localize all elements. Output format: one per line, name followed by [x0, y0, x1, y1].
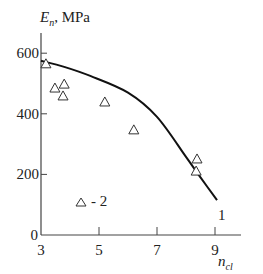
- series-2-point: [59, 79, 69, 88]
- y-tick-label: 400: [17, 106, 40, 122]
- series-line: [41, 61, 217, 200]
- x-axis-title: ncl: [218, 253, 233, 272]
- y-tick-label: 600: [17, 45, 40, 61]
- series-points: [41, 59, 202, 175]
- series-1-curve: [41, 61, 217, 200]
- ticks: 35790200400600: [17, 45, 219, 258]
- series-2-point: [192, 154, 202, 163]
- y-tick-label: 200: [17, 166, 40, 182]
- x-tick-label: 5: [95, 242, 103, 258]
- chart: 35790200400600 En, MPa ncl - 2 1: [0, 0, 263, 274]
- legend: - 2: [76, 193, 107, 209]
- series-1-label: 1: [218, 207, 226, 223]
- legend-triangle-marker: [76, 198, 86, 206]
- y-tick-label: 0: [31, 227, 39, 243]
- series-2-point: [100, 97, 110, 106]
- x-tick-label: 3: [37, 242, 45, 258]
- axes: [41, 33, 241, 235]
- legend-label: - 2: [91, 193, 107, 209]
- x-tick-label: 7: [153, 242, 161, 258]
- series-2-point: [129, 125, 139, 134]
- series-2-point: [50, 83, 60, 92]
- y-axis-title: En, MPa: [39, 9, 90, 28]
